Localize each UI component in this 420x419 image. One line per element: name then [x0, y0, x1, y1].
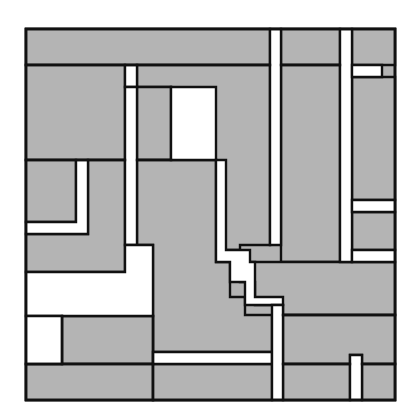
white-region-tall-white-window [171, 87, 216, 160]
gray-region-top-band-mid [281, 29, 340, 65]
abstract-composition-diagram [0, 0, 420, 419]
gray-region-bottom-row-far-right [362, 364, 395, 400]
white-region-bottom-vertical-strip [272, 305, 283, 400]
gray-region-far-right-top [352, 29, 395, 65]
gray-region-bottom-row-right [283, 364, 350, 400]
white-region-bottom-horizontal-strip [153, 352, 272, 364]
white-region-small-white-box [26, 316, 62, 364]
gray-region-top-band-left [26, 29, 270, 65]
gray-region-upper-center-inner [137, 87, 171, 160]
white-region-left-strip [125, 87, 137, 245]
white-region-right-stub-top [352, 65, 382, 77]
gray-region-bottom-left-mid [62, 316, 153, 364]
gray-region-far-right-upper [352, 77, 395, 200]
gray-region-bottom-row-mid [153, 364, 272, 400]
white-region-top-small-slot [125, 65, 137, 87]
white-region-vertical-strip-mid [270, 29, 281, 245]
white-region-bottom-small-post [350, 355, 362, 400]
gray-region-left-l-inner [26, 160, 76, 222]
gray-region-right-mid-block [281, 65, 340, 262]
gray-region-far-right-lower [352, 212, 395, 250]
gray-region-bottom-row-left [26, 364, 153, 400]
white-region-vertical-strip-right [340, 29, 352, 262]
gray-region-bottom-right-block [283, 315, 395, 364]
white-region-right-stub-mid [352, 200, 395, 212]
white-region-right-stub-low [352, 250, 395, 262]
gray-region-upper-left-block [26, 65, 125, 160]
